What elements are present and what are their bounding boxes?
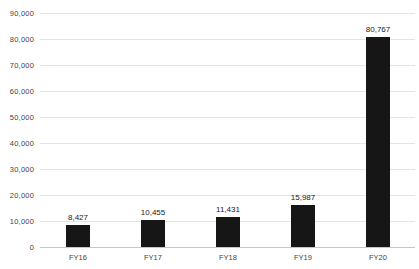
bar-FY20	[366, 37, 390, 247]
gridline	[40, 143, 415, 144]
gridline	[40, 39, 415, 40]
y-tick-label: 50,000	[10, 113, 34, 122]
x-axis-label-FY19: FY19	[294, 253, 312, 262]
x-axis-label-FY16: FY16	[69, 253, 87, 262]
x-axis-label-FY20: FY20	[369, 253, 387, 262]
gridline	[40, 13, 415, 14]
bar-value-label-FY20: 80,767	[366, 25, 390, 34]
y-tick-label: 70,000	[10, 61, 34, 70]
y-tick-label: 90,000	[10, 9, 34, 18]
y-tick-label: 0	[30, 243, 34, 252]
x-axis-label-FY17: FY17	[144, 253, 162, 262]
gridline	[40, 91, 415, 92]
y-tick-label: 80,000	[10, 35, 34, 44]
y-tick-label: 20,000	[10, 191, 34, 200]
y-tick-label: 10,000	[10, 217, 34, 226]
x-axis-line	[40, 247, 415, 248]
bar-value-label-FY18: 11,431	[216, 205, 240, 214]
bar-chart: 010,00020,00030,00040,00050,00060,00070,…	[0, 0, 419, 269]
y-tick-label: 60,000	[10, 87, 34, 96]
bar-value-label-FY19: 15,987	[291, 193, 315, 202]
chart-screenshot: 010,00020,00030,00040,00050,00060,00070,…	[0, 0, 419, 269]
gridline	[40, 65, 415, 66]
y-tick-label: 30,000	[10, 165, 34, 174]
gridline	[40, 169, 415, 170]
y-tick-label: 40,000	[10, 139, 34, 148]
bar-value-label-FY17: 10,455	[141, 208, 165, 217]
bar-FY19	[291, 205, 315, 247]
gridline	[40, 195, 415, 196]
bar-FY17	[141, 220, 165, 247]
gridline	[40, 117, 415, 118]
bar-FY18	[216, 217, 240, 247]
bar-FY16	[66, 225, 90, 247]
x-axis-label-FY18: FY18	[219, 253, 237, 262]
bar-value-label-FY16: 8,427	[68, 213, 88, 222]
